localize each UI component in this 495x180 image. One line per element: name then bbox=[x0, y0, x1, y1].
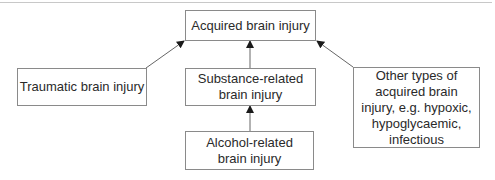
node-label: Traumatic brain injury bbox=[20, 79, 145, 95]
node-label: Alcohol-related brain injury bbox=[206, 135, 293, 167]
top-rule bbox=[0, 2, 492, 3]
node-label: Acquired brain injury bbox=[191, 18, 310, 34]
node-other-acquired-brain-injury: Other types of acquired brain injury, e.… bbox=[353, 67, 480, 148]
arrow-traumatic-to-acquired bbox=[146, 41, 184, 68]
node-label: Substance-related brain injury bbox=[198, 71, 304, 103]
node-traumatic-brain-injury: Traumatic brain injury bbox=[17, 68, 147, 106]
node-alcohol-related-brain-injury: Alcohol-related brain injury bbox=[185, 131, 314, 170]
node-acquired-brain-injury: Acquired brain injury bbox=[185, 10, 316, 41]
arrow-other-to-acquired bbox=[317, 41, 353, 67]
node-label: Other types of acquired brain injury, e.… bbox=[361, 68, 471, 148]
node-substance-related-brain-injury: Substance-related brain injury bbox=[185, 68, 316, 106]
